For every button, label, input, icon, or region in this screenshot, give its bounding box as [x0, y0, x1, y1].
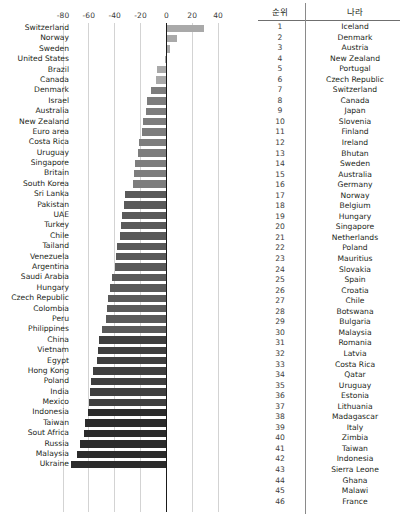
- bar-row: Turkey: [0, 220, 252, 230]
- category-label: Philippines: [28, 324, 69, 334]
- cell-country: Belgium: [308, 201, 402, 212]
- category-label: Brazil: [48, 65, 69, 75]
- table-row: 5Portugal: [256, 64, 402, 75]
- cell-country: Japan: [308, 106, 402, 117]
- category-label: Turkey: [44, 220, 69, 230]
- cell-country: Malaysia: [308, 328, 402, 339]
- bar-row: New Zealand: [0, 117, 252, 127]
- x-tick-label-5: 20: [187, 11, 197, 20]
- cell-country: Chile: [308, 296, 402, 307]
- cell-country: Bulgaria: [308, 317, 402, 328]
- cell-country: Romania: [308, 338, 402, 349]
- bar: [147, 97, 166, 104]
- table-row: 20Singapore: [256, 222, 402, 233]
- bar: [142, 128, 167, 135]
- cell-country: Singapore: [308, 222, 402, 233]
- x-tick-label-4: 0: [164, 11, 169, 20]
- cell-rank: 40: [256, 433, 304, 444]
- table-row: 7Switzerland: [256, 85, 402, 96]
- category-label: Ukraine: [40, 459, 69, 469]
- cell-rank: 46: [256, 497, 304, 508]
- cell-rank: 13: [256, 149, 304, 160]
- table-row: 9Japan: [256, 106, 402, 117]
- bar-row: Switzerland: [0, 23, 252, 33]
- bar: [77, 451, 166, 458]
- cell-country: Indonesia: [308, 454, 402, 465]
- bar-row: Britain: [0, 168, 252, 178]
- cell-country: Ireland: [308, 138, 402, 149]
- table-row: 45Malawi: [256, 486, 402, 497]
- x-tick-label-0: -80: [57, 11, 70, 20]
- rank-table: 순위 나라 1Iceland2Denmark3Austria4New Zeala…: [256, 0, 402, 516]
- bar-row: India: [0, 387, 252, 397]
- table-row: 23Mauritius: [256, 254, 402, 265]
- table-row: 2Denmark: [256, 33, 402, 44]
- table-row: 18Belgium: [256, 201, 402, 212]
- cell-country: Denmark: [308, 33, 402, 44]
- cell-country: Uruguay: [308, 381, 402, 392]
- cell-country: Qatar: [308, 370, 402, 381]
- category-label: Egypt: [47, 356, 69, 366]
- cell-country: Sierra Leone: [308, 465, 402, 476]
- bar: [80, 440, 167, 447]
- bar: [107, 305, 166, 312]
- cell-country: France: [308, 497, 402, 508]
- cell-country: Lithuania: [308, 402, 402, 413]
- table-row: 33Costa Rica: [256, 360, 402, 371]
- category-label: Argentina: [32, 262, 69, 272]
- cell-country: Australia: [308, 170, 402, 181]
- cell-country: Zimbia: [308, 433, 402, 444]
- category-label: South Korea: [23, 179, 69, 189]
- bar-row: Chile: [0, 231, 252, 241]
- category-label: Colombia: [33, 304, 69, 314]
- cell-country: Netherlands: [308, 233, 402, 244]
- table-row: 13Bhutan: [256, 149, 402, 160]
- table-row: 15Australia: [256, 170, 402, 181]
- bar-row: Sout Africa: [0, 428, 252, 438]
- cell-country: Germany: [308, 180, 402, 191]
- category-label: Singapore: [31, 158, 69, 168]
- bar-row: United States: [0, 54, 252, 64]
- category-label: Poland: [44, 376, 69, 386]
- table-row: 6Czech Republic: [256, 75, 402, 86]
- category-label: Saudi Arabia: [21, 272, 69, 282]
- category-label: India: [50, 387, 69, 397]
- cell-rank: 7: [256, 85, 304, 96]
- bar-row: Norway: [0, 33, 252, 43]
- bar-row: Costa Rica: [0, 137, 252, 147]
- bar-chart: -80-60-40-2002040 SwitzerlandNorwaySwede…: [0, 0, 252, 516]
- category-label: Peru: [52, 314, 69, 324]
- bar-row: South Korea: [0, 179, 252, 189]
- category-label: Britain: [44, 168, 69, 178]
- category-label: Israel: [48, 96, 69, 106]
- cell-rank: 6: [256, 75, 304, 86]
- cell-rank: 9: [256, 106, 304, 117]
- table-row: 40Zimbia: [256, 433, 402, 444]
- cell-rank: 42: [256, 454, 304, 465]
- table-row: 24Slovakia: [256, 265, 402, 276]
- category-label: Vietnam: [37, 345, 69, 355]
- category-label: Hungary: [37, 283, 69, 293]
- bar-row: Hungary: [0, 283, 252, 293]
- figure-root: -80-60-40-2002040 SwitzerlandNorwaySwede…: [0, 0, 402, 516]
- table-row: 39Italy: [256, 423, 402, 434]
- bar-row: Saudi Arabia: [0, 272, 252, 282]
- bar: [89, 399, 167, 406]
- table-header: 순위 나라: [256, 0, 402, 22]
- category-label: UAE: [53, 210, 69, 220]
- category-label: Costa Rica: [29, 137, 69, 147]
- bar-row: Venezuela: [0, 252, 252, 262]
- bar: [138, 149, 166, 156]
- bar: [91, 378, 166, 385]
- cell-country: Hungary: [308, 212, 402, 223]
- bar-row: Hong Kong: [0, 366, 252, 376]
- cell-country: Slovenia: [308, 117, 402, 128]
- category-label: Sri Lanka: [34, 189, 69, 199]
- table-row: 44Ghana: [256, 476, 402, 487]
- bar-row: Canada: [0, 75, 252, 85]
- table-row: 32Latvia: [256, 349, 402, 360]
- cell-country: Slovakia: [308, 265, 402, 276]
- cell-country: Madagascar: [308, 412, 402, 423]
- bar: [166, 25, 203, 32]
- category-label: Pakistan: [37, 200, 69, 210]
